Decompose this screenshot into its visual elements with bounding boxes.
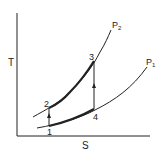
point-3-label: 3 bbox=[89, 52, 94, 62]
point-1-label: 1 bbox=[47, 127, 52, 137]
isobar-p1-curve bbox=[37, 67, 147, 128]
ts-diagram: T S 1 2 3 4 P2 P1 bbox=[0, 0, 164, 154]
y-axis-label: T bbox=[8, 57, 14, 68]
arrow-up-icon bbox=[92, 83, 96, 88]
process-2-3 bbox=[49, 61, 94, 108]
isobar-p1-label: P1 bbox=[146, 57, 156, 68]
point-4-label: 4 bbox=[93, 112, 98, 122]
point-2-label: 2 bbox=[44, 99, 49, 109]
x-axis-label: S bbox=[82, 140, 89, 151]
isobar-p2-label: P2 bbox=[112, 20, 122, 31]
process-1-4 bbox=[49, 109, 94, 126]
arrow-up-icon bbox=[47, 113, 51, 118]
